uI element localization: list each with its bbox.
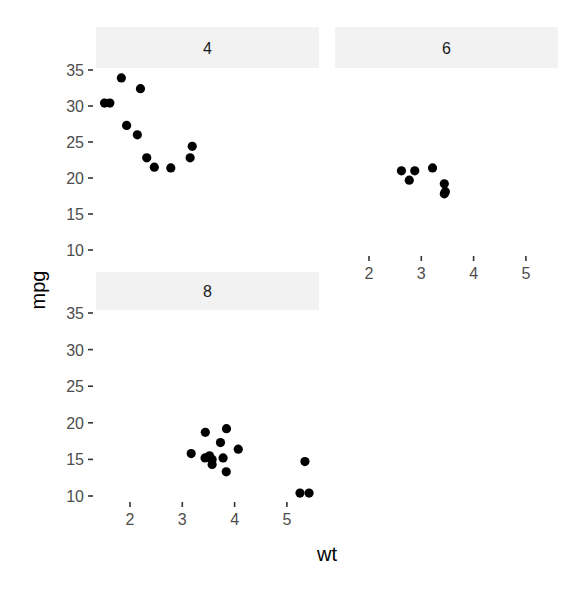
data-point — [440, 179, 449, 188]
x-tick-label: 4 — [230, 511, 239, 528]
x-tick-label: 2 — [365, 265, 374, 282]
x-tick-label: 3 — [417, 265, 426, 282]
faceted-scatter-chart: 41015202530356234581015202530352345 mpg … — [0, 0, 570, 590]
y-tick-label: 20 — [66, 415, 84, 432]
y-tick-label: 25 — [66, 134, 84, 151]
x-tick-label: 3 — [178, 511, 187, 528]
data-point — [222, 424, 231, 433]
y-tick-label: 30 — [66, 98, 84, 115]
data-point — [405, 176, 414, 185]
facet-panel-8: 81015202530352345 — [66, 272, 319, 528]
y-tick-label: 15 — [66, 451, 84, 468]
facet-panel-6: 62345 — [335, 27, 558, 282]
facet-strip-label: 8 — [203, 283, 212, 300]
y-tick-label: 10 — [66, 242, 84, 259]
data-point — [295, 488, 304, 497]
x-axis-title: wt — [316, 543, 337, 565]
y-tick-label: 15 — [66, 206, 84, 223]
data-point — [216, 438, 225, 447]
facet-strip-label: 6 — [442, 40, 451, 57]
data-point — [117, 73, 126, 82]
data-point — [166, 163, 175, 172]
data-point — [208, 455, 217, 464]
y-tick-label: 25 — [66, 378, 84, 395]
data-point — [100, 99, 109, 108]
facet-strip-label: 4 — [203, 40, 212, 57]
x-tick-label: 5 — [282, 511, 291, 528]
data-point — [218, 453, 227, 462]
panels-layer: 41015202530356234581015202530352345 — [66, 27, 558, 528]
data-point — [410, 166, 419, 175]
y-tick-label: 30 — [66, 342, 84, 359]
data-point — [188, 142, 197, 151]
x-tick-label: 5 — [521, 265, 530, 282]
y-tick-label: 35 — [66, 305, 84, 322]
data-point — [440, 189, 449, 198]
data-point — [304, 488, 313, 497]
y-tick-label: 10 — [66, 488, 84, 505]
data-point — [300, 457, 309, 466]
data-point — [142, 153, 151, 162]
data-point — [234, 445, 243, 454]
y-axis-title: mpg — [27, 271, 49, 310]
data-point — [150, 163, 159, 172]
data-point — [397, 166, 406, 175]
data-point — [222, 467, 231, 476]
y-tick-label: 20 — [66, 170, 84, 187]
data-point — [187, 449, 196, 458]
data-point — [186, 153, 195, 162]
data-point — [122, 121, 131, 130]
data-point — [201, 428, 210, 437]
data-point — [133, 130, 142, 139]
x-tick-label: 2 — [126, 511, 135, 528]
facet-panel-4: 4101520253035 — [66, 27, 319, 259]
data-point — [136, 84, 145, 93]
data-point — [428, 163, 437, 172]
x-tick-label: 4 — [469, 265, 478, 282]
y-tick-label: 35 — [66, 62, 84, 79]
